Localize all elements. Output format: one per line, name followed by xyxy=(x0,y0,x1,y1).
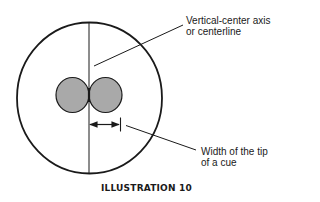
tip-width-label: Width of the tip of a cue xyxy=(201,146,268,168)
tip-width-leader-line xyxy=(126,126,196,151)
axis-label-line1: Vertical-center axis xyxy=(186,15,270,26)
axis-label-line2: or centerline xyxy=(186,26,270,37)
tip-contact-right xyxy=(89,78,122,113)
figure-caption: ILLUSTRATION 10 xyxy=(101,183,192,193)
tip-width-label-line2: of a cue xyxy=(201,157,268,168)
axis-leader-line xyxy=(94,25,183,66)
tip-contact-left xyxy=(56,78,89,113)
tip-width-label-line1: Width of the tip xyxy=(201,146,268,157)
axis-label: Vertical-center axis or centerline xyxy=(186,15,270,37)
